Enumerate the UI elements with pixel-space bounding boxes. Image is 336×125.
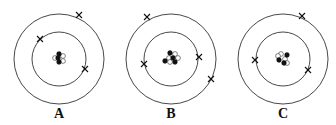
proton-icon	[173, 60, 178, 65]
proton-icon	[57, 60, 62, 65]
atom-label-b: B	[161, 106, 181, 122]
atom-label-a: A	[49, 106, 69, 122]
electron-cross-icon	[144, 14, 150, 20]
proton-icon	[282, 61, 287, 66]
electron-cross-icon	[252, 57, 258, 63]
proton-icon	[285, 53, 290, 58]
proton-icon	[163, 59, 168, 64]
electron-cross-icon	[76, 12, 82, 18]
neutron-icon	[176, 56, 181, 61]
electron-cross-icon	[196, 54, 202, 60]
atom-a	[14, 12, 104, 104]
electron-cross-icon	[208, 76, 214, 82]
proton-icon	[277, 58, 282, 63]
atom-c	[238, 13, 328, 104]
atom-label-c: C	[273, 106, 293, 122]
electron-cross-icon	[305, 67, 311, 73]
atom-b	[126, 14, 216, 104]
neutron-icon	[168, 60, 173, 65]
proton-icon	[168, 51, 173, 56]
electron-cross-icon	[37, 36, 43, 42]
